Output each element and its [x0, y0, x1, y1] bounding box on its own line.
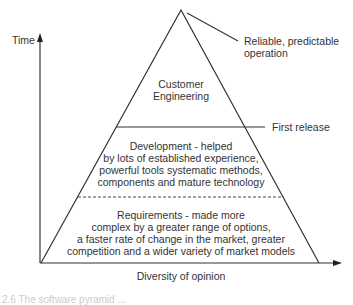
apex-leader-line [187, 13, 238, 41]
layer-line: Development - helped [98, 140, 265, 152]
layer-line: Requirements - made more [67, 209, 295, 221]
layer-requirements: Requirements - made more complex by a gr… [67, 209, 295, 257]
layer-line: components and mature technology [98, 176, 265, 188]
first-release-label: First release [272, 121, 330, 133]
layer-line: competition and a wider variety of marke… [67, 245, 295, 257]
layer-line: a faster rate of change in the market, g… [67, 233, 295, 245]
figure-caption: 2.6 The software pyramid ... [2, 294, 126, 305]
layer-development: Development - helped by lots of establis… [98, 140, 265, 188]
layer-customer-engineering: Customer Engineering [153, 78, 209, 102]
layer-line: complex by a greater range of options, [67, 221, 295, 233]
x-axis-label: Diversity of opinion [137, 270, 226, 282]
apex-annotation-line-2: operation [244, 47, 339, 59]
apex-annotation: Reliable, predictable operation [244, 35, 339, 59]
x-axis-arrow-icon [333, 260, 342, 266]
layer-line: powerful tools systematic methods, [98, 164, 265, 176]
layer-line: by lots of established experience, [98, 152, 265, 164]
apex-annotation-line-1: Reliable, predictable [244, 35, 339, 47]
layer-line: Customer [153, 78, 209, 90]
y-axis-arrow-icon [37, 33, 43, 42]
y-axis-label: Time [12, 34, 35, 46]
layer-line: Engineering [153, 90, 209, 102]
